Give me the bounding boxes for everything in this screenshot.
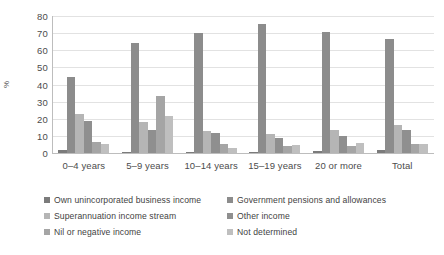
x-axis-tick-label: Total [370,160,434,171]
bar-group [307,16,371,153]
legend-label: Own unincorporated business income [54,195,201,205]
bar [67,77,76,153]
bar [101,144,110,153]
bar [165,116,174,153]
x-axis-tick-label: 0–4 years [52,160,116,171]
legend-item[interactable]: Superannuation income stream [44,211,227,221]
bar [275,138,284,153]
grouped-bar-chart: % 80706050403020100 0–4 years5–9 years10… [0,0,444,255]
x-axis-tick-label: 10–14 years [179,160,243,171]
legend-item[interactable]: Own unincorporated business income [44,195,227,205]
x-axis-tick-label: 20 or more [307,160,371,171]
x-axis-tick-labels: 0–4 years5–9 years10–14 years15–19 years… [52,160,434,171]
legend-item[interactable]: Not determined [227,227,434,237]
legend-label: Not determined [237,227,297,237]
legend-swatch-icon [227,213,233,219]
bar [402,130,411,153]
bar [339,136,348,153]
legend-label: Nil or negative income [54,227,141,237]
y-axis-tick-label: 60 [37,45,48,56]
bar [194,33,203,153]
legend-swatch-icon [44,229,50,235]
x-axis-tick-label: 5–9 years [116,160,180,171]
legend-swatch-icon [44,213,50,219]
legend-swatch-icon [44,197,50,203]
bar [84,121,93,153]
bar [139,122,148,153]
bar-group [370,16,434,153]
legend-item[interactable]: Nil or negative income [44,227,227,237]
bar [211,133,220,153]
bar-group [179,16,243,153]
bar [58,150,67,153]
legend-label: Other income [237,211,290,221]
bar-group [116,16,180,153]
y-axis-tick-label: 10 [37,130,48,141]
bar [330,130,339,153]
plot-area [52,16,434,153]
bar [266,134,275,153]
bar [292,145,301,153]
bar [249,152,258,153]
bar [156,96,165,153]
x-axis-tick-label: 15–19 years [243,160,307,171]
chart-legend: Own unincorporated business incomeGovern… [44,192,434,240]
bar [356,143,365,153]
bar [203,131,212,153]
y-axis-tick-label: 40 [37,79,48,90]
legend-item[interactable]: Government pensions and allowances [227,195,434,205]
bar [322,32,331,153]
y-axis-title: % [2,81,11,88]
y-axis-tick-label: 80 [37,11,48,22]
bar [228,148,237,153]
bar [131,43,140,153]
bar [122,152,131,153]
bar-group [243,16,307,153]
legend-label: Superannuation income stream [54,211,176,221]
bar [258,24,267,153]
legend-swatch-icon [227,197,233,203]
y-axis-tick-label: 70 [37,28,48,39]
bar [186,152,195,153]
bar [347,146,356,153]
bar-group [52,16,116,153]
bar [75,114,84,153]
legend-swatch-icon [227,229,233,235]
bar [220,144,229,153]
legend-item[interactable]: Other income [227,211,434,221]
y-axis-tick-label: 0 [43,148,48,159]
bar [411,144,420,153]
y-axis-tick-label: 30 [37,96,48,107]
bar [377,150,386,153]
legend-label: Government pensions and allowances [237,195,386,205]
y-axis-tick-labels: 80706050403020100 [18,16,48,153]
bar-groups [52,16,434,153]
y-axis-line [52,16,53,153]
y-axis-tick-label: 20 [37,113,48,124]
bar [313,151,322,153]
bar [394,125,403,153]
bar [419,144,428,153]
y-axis-tick-label: 50 [37,62,48,73]
gridline-0 [52,153,434,154]
bar [92,142,101,153]
bar [385,39,394,153]
bar [283,146,292,153]
bar [148,130,157,153]
